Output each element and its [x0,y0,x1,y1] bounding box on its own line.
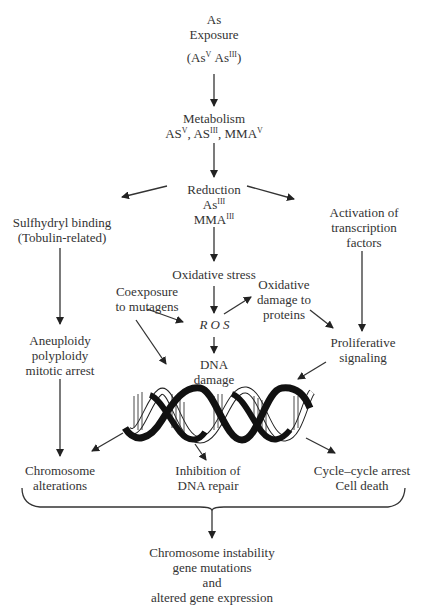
chromosome-alt-line1: Chromosome [25,463,95,478]
coexposure-line1: Coexposure [115,284,178,299]
chromosome-alt-line2: alterations [25,478,95,493]
node-reduction: Reduction AsIII MMAIII [187,182,240,227]
exposure-species: (AsV AsIII) [187,50,242,65]
arrow-helix-cycle [306,438,335,453]
proliferative-line2: signaling [331,350,396,365]
arrow-proliferative-helix [298,362,326,379]
arrow-ros-oxdamage [224,297,251,314]
dna-damage-line1: DNA [194,357,234,372]
arrow-reduction-activation [247,186,294,199]
cycle-arrest-line1: Cycle–cycle arrest [314,463,410,478]
node-activation-transcription: Activation of transcription factors [330,205,399,250]
reduction-species-2: MMAIII [187,212,240,227]
outcome-line2: gene mutations [149,560,274,575]
node-dna-damage: DNA damage [194,357,234,387]
node-inhibition-dna-repair: Inhibition of DNA repair [175,463,240,493]
metabolism-title: Metabolism [165,111,263,126]
dna-damage-line2: damage [194,372,234,387]
exposure-line2: Exposure [187,27,242,42]
node-aneuploidy: Aneuploidy polyploidy mitotic arrest [26,333,95,378]
oxdamage-line3: proteins [257,307,311,322]
node-cycle-arrest: Cycle–cycle arrest Cell death [314,463,410,493]
exposure-line1: As [187,12,242,27]
coexposure-line2: to mutagens [115,299,178,314]
node-ros: ROS [200,317,233,332]
activation-line1: Activation of [330,205,399,220]
inhibition-line1: Inhibition of [175,463,240,478]
arrow-coexposure-helix [136,320,166,364]
sulfhydryl-line2: (Tobulin-related) [13,230,112,245]
diagram-connectors [0,0,422,605]
reduction-title: Reduction [187,182,240,197]
node-oxidative-damage-proteins: Oxidative damage to proteins [257,277,311,322]
proliferative-line1: Proliferative [331,335,396,350]
node-coexposure: Coexposure to mutagens [115,284,178,314]
arrow-reduction-sulfhydryl [122,186,167,197]
inhibition-line2: DNA repair [175,478,240,493]
activation-line2: transcription [330,220,399,235]
reduction-species-1: AsIII [187,197,240,212]
metabolism-species: ASV, ASIII, MMAV [165,126,263,141]
node-oxidative-stress: Oxidative stress [172,267,255,282]
sulfhydryl-line1: Sulfhydryl binding [13,215,112,230]
oxidative-stress-label: Oxidative stress [172,267,255,282]
ros-label: ROS [200,317,233,332]
oxdamage-line1: Oxidative [257,277,311,292]
cycle-arrest-line2: Cell death [314,478,410,493]
node-sulfhydryl-binding: Sulfhydryl binding (Tobulin-related) [13,215,112,245]
arrow-oxdamage-proliferative [310,310,333,328]
node-metabolism: Metabolism ASV, ASIII, MMAV [165,111,263,141]
outcome-line3: and [149,575,274,590]
aneuploidy-line3: mitotic arrest [26,363,95,378]
outcome-line4: altered gene expression [149,590,274,605]
node-chromosome-alterations: Chromosome alterations [25,463,95,493]
node-outcome: Chromosome instability gene mutations an… [149,545,274,605]
aneuploidy-line2: polyploidy [26,348,95,363]
node-proliferative-signaling: Proliferative signaling [331,335,396,365]
outcome-line1: Chromosome instability [149,545,274,560]
oxdamage-line2: damage to [257,292,311,307]
arrow-helix-chromosome [92,433,123,451]
dna-helix-icon [125,388,312,440]
arrow-helix-inhibition [195,444,206,460]
arsenic-pathway-diagram: As Exposure (AsV AsIII) Metabolism ASV, … [0,0,422,605]
aneuploidy-line1: Aneuploidy [26,333,95,348]
activation-line3: factors [330,235,399,250]
node-exposure: As Exposure (AsV AsIII) [187,12,242,65]
